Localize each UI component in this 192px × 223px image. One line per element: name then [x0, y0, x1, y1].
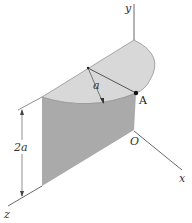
radius-label: a: [93, 79, 100, 92]
x-axis-label: x: [179, 172, 186, 185]
arrow-down-icon: [20, 191, 24, 197]
z-axis: [8, 186, 42, 206]
point-a-marker: [134, 91, 138, 95]
arrow-up-icon: [20, 109, 24, 115]
y-axis-label: y: [124, 2, 132, 15]
curved-wall: [42, 93, 136, 186]
point-a-label: A: [138, 94, 148, 107]
diagram-canvas: y x z O A a 2a: [0, 0, 192, 223]
extension-line: [18, 97, 42, 110]
x-axis: [134, 131, 182, 170]
center-point: [87, 67, 89, 69]
height-label: 2a: [13, 141, 28, 154]
origin-label: O: [130, 135, 139, 148]
z-axis-label: z: [3, 208, 10, 221]
top-plate: [42, 40, 155, 104]
